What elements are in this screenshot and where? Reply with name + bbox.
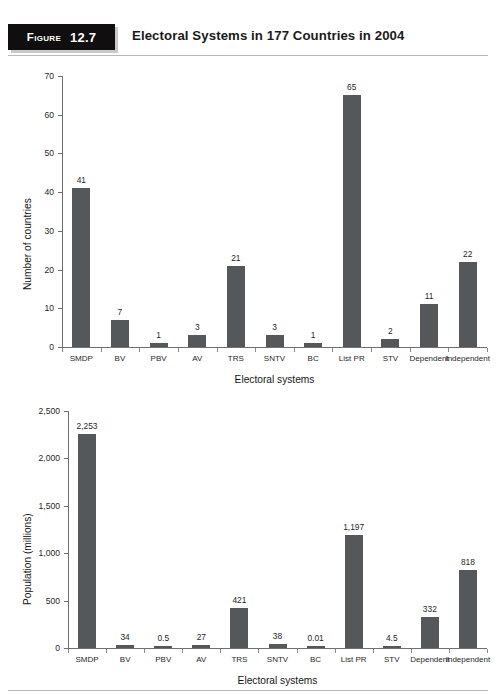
bar-value-label: 38 [273,631,282,641]
x-axis-tick-label: SNTV [267,655,288,664]
bar-value-label: 332 [423,604,437,614]
x-axis-tick-label: PBV [155,655,171,664]
x-axis-tick-label: BV [120,655,131,664]
x-axis-tick-label: Independent [446,655,491,664]
bar-value-label: 0.01 [307,633,323,643]
y-axis-tick-label: 2,000 [26,453,60,463]
x-axis-tick-label: BC [310,655,321,664]
x-axis-tick-label: STV [384,655,400,664]
x-axis-tick [373,649,374,653]
footer-divider [8,690,488,691]
x-axis-tick-label: TRS [231,655,247,664]
x-axis-tick-label: AV [196,655,206,664]
bar [154,646,172,649]
y-axis-tick [64,458,68,459]
bar-value-label: 0.5 [157,633,169,643]
x-axis-tick [487,649,488,653]
y-axis-tick [64,411,68,412]
y-axis-tick-label: 1,500 [26,501,60,511]
bar-value-label: 1,197 [343,522,364,532]
y-axis-tick-label: 0 [26,643,60,653]
x-axis-tick [220,649,221,653]
bar-value-label: 421 [232,595,246,605]
y-axis-tick [64,601,68,602]
bar-value-label: 2,253 [77,421,98,431]
bar [230,608,248,648]
x-axis-tick [335,649,336,653]
y-axis-line [68,411,69,648]
x-axis-tick [297,649,298,653]
x-axis-tick [68,649,69,653]
x-axis-tick-label: List PR [341,655,367,664]
y-axis-tick-label: 2,500 [26,406,60,416]
y-axis-tick [64,506,68,507]
bar [383,646,401,649]
x-axis-tick [106,649,107,653]
y-axis-tick [64,553,68,554]
x-axis-line [68,648,487,649]
bar [78,434,96,648]
bar [459,570,477,648]
x-axis-tick [449,649,450,653]
bar-value-label: 818 [461,557,475,567]
x-axis-tick-label: Dependent [410,655,449,664]
x-axis-tick [258,649,259,653]
x-axis-tick [144,649,145,653]
bar-value-label: 4.5 [386,633,398,643]
bar [421,617,439,648]
bar [192,645,210,648]
bar [269,644,287,648]
bar-value-label: 34 [120,632,129,642]
bar [116,645,134,648]
bar [345,535,363,648]
bar-value-label: 27 [197,632,206,642]
x-axis-tick [182,649,183,653]
y-axis-title: Population (millions) [22,513,33,605]
x-axis-tick [411,649,412,653]
bar [307,646,325,649]
x-axis-tick-label: SMDP [75,655,98,664]
chart-population-millions: 05001,0001,5002,0002,5002,253SMDP34BV0.5… [0,0,500,699]
x-axis-title: Electoral systems [238,675,318,686]
